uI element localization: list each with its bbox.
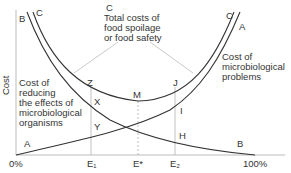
point-h-label: H [179,131,186,141]
point-x-label: X [94,97,100,107]
curve-b-top-label: B [19,14,25,24]
x-tick-0: 0% [9,159,23,169]
y-axis-label: Cost [1,75,12,95]
point-m-label: M [133,90,141,100]
point-j-label: J [173,78,178,88]
curve-a-top-label: A [239,22,245,32]
point-z-label: Z [87,78,93,88]
reducing-line5: organisms [19,118,63,129]
point-i-label: I [180,106,183,116]
curve-a-start-label: A [24,139,30,149]
total-cost-leader-left [74,42,118,73]
curve-c-left-label: C [36,8,43,18]
micro-problems-line3: problems [222,72,261,83]
x-tick-e2: E₂ [170,159,180,169]
total-cost-leader-right [150,42,193,73]
x-tick-e1: E₁ [87,159,97,169]
total-cost-line3: or food safety [104,33,162,44]
x-tick-estar: E* [133,159,143,169]
curve-b-end-label: B [237,139,243,149]
curve-c-right-label: C [226,11,233,21]
x-tick-100: 100% [243,159,267,169]
point-y-label: Y [94,122,100,132]
